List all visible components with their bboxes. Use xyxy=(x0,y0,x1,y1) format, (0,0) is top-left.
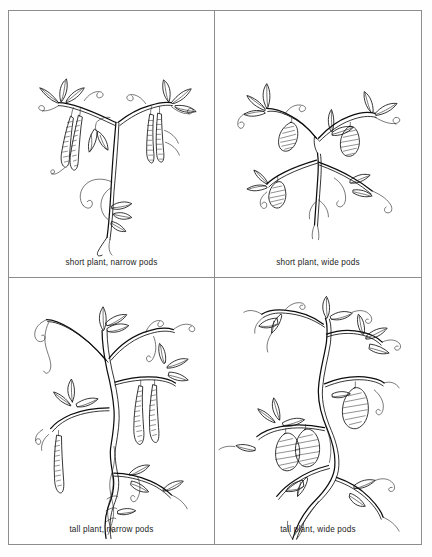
illustration-tall-wide-pea-plant xyxy=(215,278,421,545)
panel-short-wide: short plant, wide pods xyxy=(215,11,421,278)
illustration-short-wide-pea-plant xyxy=(215,11,421,277)
illustration-tall-narrow-pea-plant xyxy=(9,278,214,545)
figure-frame: short plant, narrow pods xyxy=(8,10,422,545)
panel-caption-tall-wide: tall plant, wide pods xyxy=(280,525,356,544)
panel-short-narrow: short plant, narrow pods xyxy=(9,11,215,278)
panel-grid: short plant, narrow pods xyxy=(9,11,421,544)
illustration-short-narrow-pea-plant xyxy=(9,11,214,277)
figure-root: short plant, narrow pods xyxy=(0,0,432,557)
panel-caption-short-narrow: short plant, narrow pods xyxy=(65,258,157,277)
panel-tall-wide: tall plant, wide pods xyxy=(215,278,421,545)
panel-caption-tall-narrow: tall plant, narrow pods xyxy=(69,525,153,544)
panel-caption-short-wide: short plant, wide pods xyxy=(276,258,360,277)
panel-tall-narrow: tall plant, narrow pods xyxy=(9,278,215,545)
